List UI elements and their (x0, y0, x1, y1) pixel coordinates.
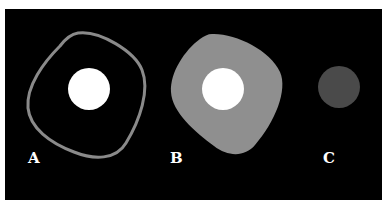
figure-shapes (0, 0, 387, 204)
label-a: A (28, 151, 40, 166)
cell-a-nucleus (68, 68, 110, 110)
label-b: B (170, 151, 183, 166)
cell-b-nucleus (202, 68, 244, 110)
label-c: C (323, 151, 335, 166)
cell-c-body (318, 66, 360, 108)
